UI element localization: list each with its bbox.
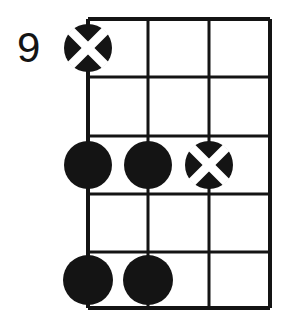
marker-disc-filled [123,255,173,305]
fret-lines-group [88,19,270,308]
marker-dot-string1-fret3[interactable] [64,141,112,189]
chord-diagram: 9 [0,0,295,333]
string-lines-group [88,19,270,308]
marker-x-string1-fret1[interactable] [64,24,112,72]
marker-disc-filled [63,255,113,305]
marker-dot-string1-fret5[interactable] [63,255,113,305]
marker-disc-filled [64,141,112,189]
marker-x-string3-fret3[interactable] [185,141,233,189]
marker-dot-string2-fret5[interactable] [123,255,173,305]
marker-disc-filled [124,141,172,189]
marker-dot-string2-fret3[interactable] [124,141,172,189]
fretboard-grid [0,0,295,333]
